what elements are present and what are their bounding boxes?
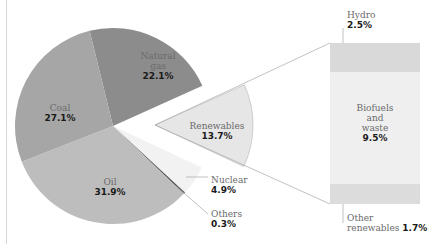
label-coal-name: Coal (35, 103, 85, 113)
label-hydro: Hydro 2.5% (347, 10, 407, 31)
bar-segment-hydro (330, 43, 420, 72)
label-natural-gas-name-2: gas (128, 61, 188, 71)
label-others-name: Others (211, 209, 271, 219)
label-biofuels: Biofuels and waste 9.5% (340, 103, 410, 144)
label-other-renewables-line2: renewables (347, 223, 399, 233)
label-renewables: Renewables 13.7% (182, 121, 252, 142)
label-hydro-value: 2.5% (347, 20, 407, 31)
label-others: Others 0.3% (211, 209, 271, 230)
label-renewables-value: 13.7% (182, 131, 252, 142)
label-other-renewables-value: 1.7% (402, 223, 427, 233)
label-oil-value: 31.9% (85, 187, 135, 198)
label-biofuels-line1: Biofuels (340, 103, 410, 113)
label-nuclear: Nuclear 4.9% (211, 175, 271, 196)
label-others-value: 0.3% (211, 219, 271, 230)
label-biofuels-value: 9.5% (340, 133, 410, 144)
leader-others (176, 186, 208, 214)
label-biofuels-line2: and (340, 113, 410, 123)
label-nuclear-value: 4.9% (211, 185, 271, 196)
label-natural-gas-value: 22.1% (128, 71, 188, 82)
label-hydro-name: Hydro (347, 10, 407, 20)
bar-segment-other-renewables (330, 184, 420, 204)
label-other-renewables-line1: Other (347, 213, 436, 223)
label-natural-gas: Natural gas 22.1% (128, 51, 188, 82)
label-renewables-name: Renewables (182, 121, 252, 131)
label-oil: Oil 31.9% (85, 177, 135, 198)
label-oil-name: Oil (85, 177, 135, 187)
label-coal: Coal 27.1% (35, 103, 85, 124)
label-biofuels-line3: waste (340, 123, 410, 133)
label-natural-gas-name-1: Natural (128, 51, 188, 61)
label-coal-value: 27.1% (35, 113, 85, 124)
label-nuclear-name: Nuclear (211, 175, 271, 185)
label-other-renewables: Other renewables 1.7% (347, 213, 436, 233)
label-other-renewables-line2-wrap: renewables 1.7% (347, 223, 436, 233)
